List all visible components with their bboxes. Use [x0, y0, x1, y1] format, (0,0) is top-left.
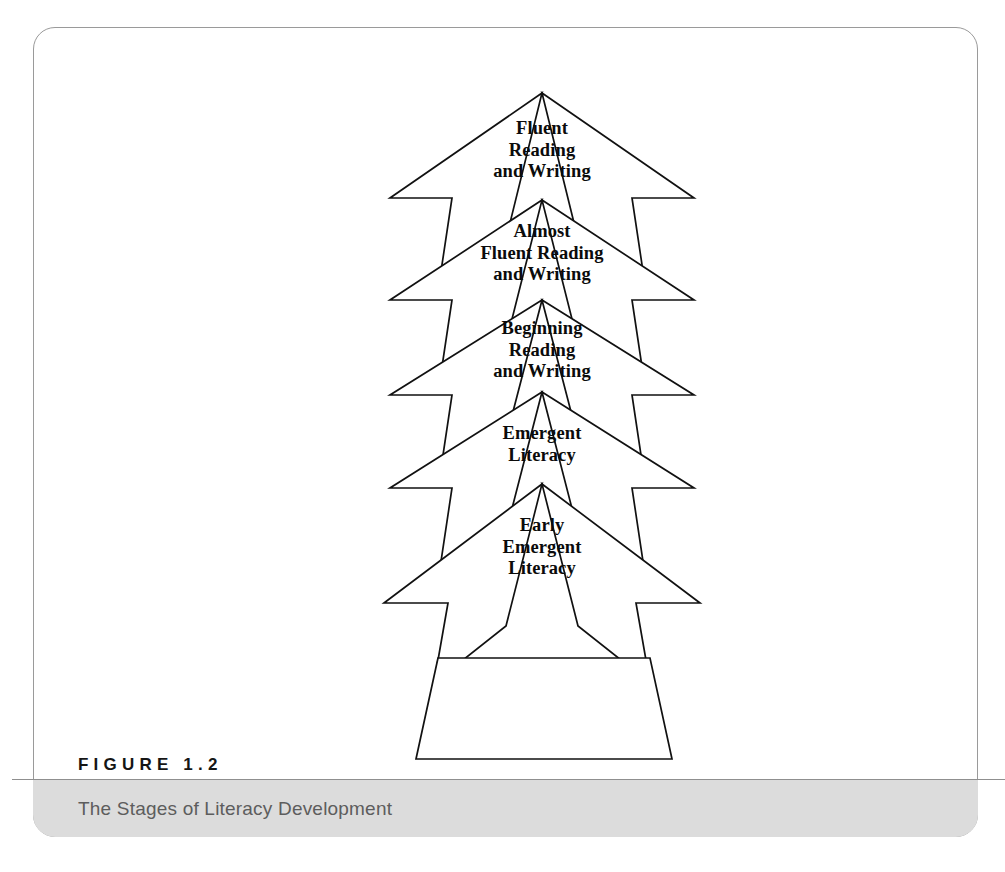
tier-3-label: Beginning Reading and Writing — [427, 318, 657, 383]
tier-1-label: Fluent Reading and Writing — [427, 118, 657, 183]
tier-2-label: Almost Fluent Reading and Writing — [427, 221, 657, 286]
tier-5-label: Early Emergent Literacy — [427, 515, 657, 580]
tier-4-label: Emergent Literacy — [427, 423, 657, 466]
figure-number-label: FIGURE 1.2 — [78, 755, 223, 775]
figure-title-label: The Stages of Literacy Development — [78, 798, 392, 820]
literacy-stages-tree-diagram: Fluent Reading and Writing Almost Fluent… — [364, 78, 724, 778]
figure-panel: Fluent Reading and Writing Almost Fluent… — [33, 27, 978, 837]
tree-trunk-shape — [416, 658, 672, 759]
